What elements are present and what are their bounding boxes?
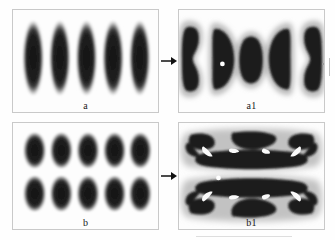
- panel-b-label: b: [13, 217, 158, 228]
- panel-a1: a1: [178, 9, 325, 113]
- panel-a: a: [12, 9, 159, 113]
- panel-a1-image: [179, 10, 324, 112]
- panel-b-image: [13, 123, 158, 229]
- marker-dot-a1: [220, 62, 225, 67]
- scan-artifact-dot: [322, 63, 324, 65]
- marker-dot-b1: [216, 176, 221, 181]
- panel-b1: b1: [178, 122, 325, 230]
- panel-a1-label: a1: [179, 100, 324, 111]
- arrow-a-to-a1-icon: [160, 53, 178, 69]
- panel-b: b: [12, 122, 159, 230]
- panel-a-label: a: [13, 100, 158, 111]
- arrow-b-to-b1-icon: [160, 168, 178, 184]
- figure-root: a: [0, 0, 335, 240]
- scan-artifact-tick: [329, 58, 330, 76]
- panel-a-image: [13, 10, 158, 112]
- scan-artifact-baseline: [196, 236, 292, 237]
- panel-b1-label: b1: [179, 217, 324, 228]
- panel-b1-image: [179, 123, 324, 229]
